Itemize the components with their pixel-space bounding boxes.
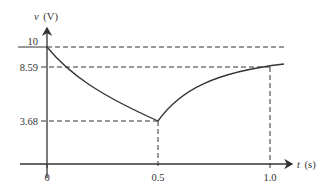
y-axis-label: v (V) [34,11,58,23]
x-axis-label: t (s) [297,159,316,171]
y-tick-label-10: 10 [28,36,39,47]
x-tick-label-0: 0 [44,172,49,183]
charge-curve [158,64,284,121]
voltage-time-diagram: v (V) 10 8.59 3.68 0 0.5 1.0 t (s) [0,0,334,190]
x-tick-label-0-5: 0.5 [151,172,164,183]
y-tick-label-8-59: 8.59 [20,62,38,73]
y-tick-label-3-68: 3.68 [20,116,38,127]
decay-curve [47,47,158,121]
x-tick-label-1-0: 1.0 [263,172,276,183]
